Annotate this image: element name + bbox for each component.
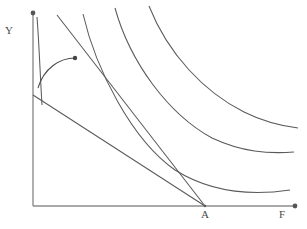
indifference-curve-2 (115, 8, 294, 153)
indifference-curve-3 (149, 6, 298, 128)
rotation-arrow-icon (38, 58, 75, 88)
budget-line-flat (33, 95, 205, 206)
x-axis-label: F (279, 208, 285, 220)
indifference-curve-1 (83, 14, 290, 193)
point-a-marker (204, 205, 206, 207)
y-axis-label: Y (5, 24, 13, 36)
point-a-label: A (201, 208, 209, 220)
indifference-curve-partial (37, 17, 42, 105)
diagram-canvas: Y A F (0, 0, 307, 229)
budget-line-steep (57, 15, 205, 206)
indifference-curve-plot (0, 0, 307, 229)
